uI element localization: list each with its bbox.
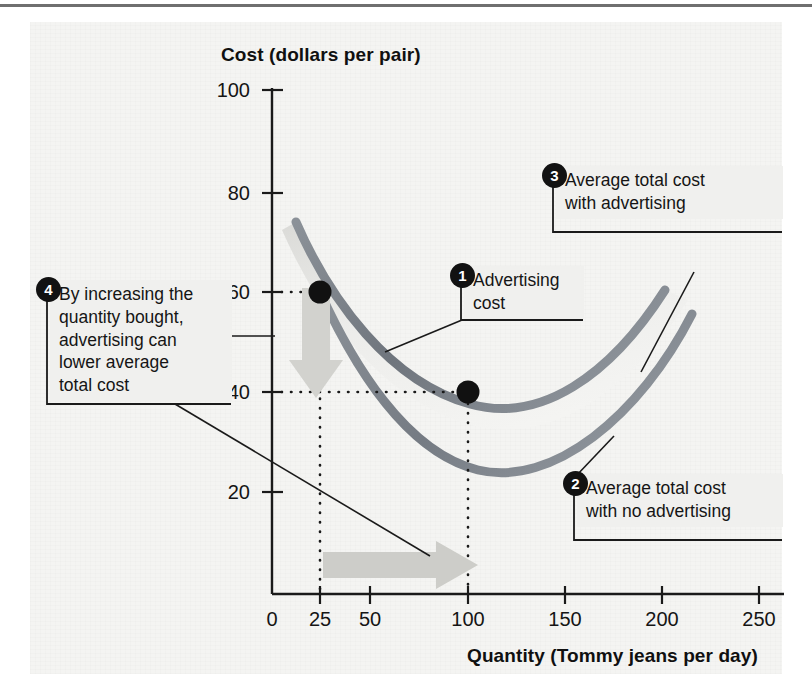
y-tick-label-100: 100 [198, 79, 250, 102]
x-tick-label-50: 50 [345, 608, 395, 631]
callout-4-text: By increasing the quantity bought, adver… [50, 280, 232, 401]
y-tick-label-20: 20 [198, 481, 250, 504]
advertising-cost-band [282, 222, 688, 430]
quantity-increase-arrow [323, 541, 478, 589]
x-axis-title: Quantity (Tommy jeans per day) [467, 645, 758, 667]
x-tick-label-250: 250 [734, 608, 784, 631]
callout-4-badge: 4 [36, 277, 61, 302]
marker-point-100-40 [457, 381, 480, 404]
callout-1-text: Advertising cost [464, 266, 584, 319]
x-tick-label-25: 25 [295, 608, 345, 631]
figure-page: Cost (dollars per pair) Quantity (Tommy … [0, 0, 812, 696]
callout-3-badge: 3 [542, 163, 567, 188]
callout-2-text: Average total cost with no advertising [577, 474, 783, 527]
callout-2-badge: 2 [563, 471, 588, 496]
leader-line-callout-1 [385, 320, 462, 352]
y-tick-label-80: 80 [198, 182, 250, 205]
callout-3-text: Average total cost with advertising [556, 166, 783, 219]
x-tick-label-150: 150 [540, 608, 590, 631]
x-tick-label-100: 100 [443, 608, 493, 631]
leader-line-callout-4 [175, 404, 430, 556]
marker-point-25-60 [309, 281, 332, 304]
y-axis-title: Cost (dollars per pair) [221, 44, 421, 66]
x-tick-label-200: 200 [637, 608, 687, 631]
callout-1-badge: 1 [450, 263, 475, 288]
x-tick-label-0: 0 [247, 608, 297, 631]
